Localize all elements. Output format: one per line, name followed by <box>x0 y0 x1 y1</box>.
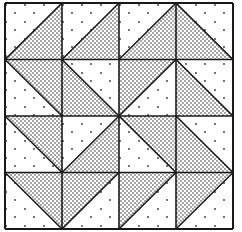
quilt-block <box>119 116 176 173</box>
quilt-block <box>62 60 119 117</box>
quilt-block <box>176 60 233 117</box>
quilt-block <box>119 3 176 60</box>
quilt-block <box>5 173 62 230</box>
quilt-block <box>119 173 176 230</box>
quilt-block <box>176 3 233 60</box>
quilt-block <box>5 116 62 173</box>
quilt-block <box>176 173 233 230</box>
quilt-block <box>62 173 119 230</box>
quilt-block <box>62 116 119 173</box>
quilt-block <box>62 3 119 60</box>
quilt-block <box>119 60 176 117</box>
quilt-pattern <box>0 0 242 232</box>
quilt-block <box>5 60 62 117</box>
quilt-block <box>5 3 62 60</box>
quilt-block <box>176 116 233 173</box>
